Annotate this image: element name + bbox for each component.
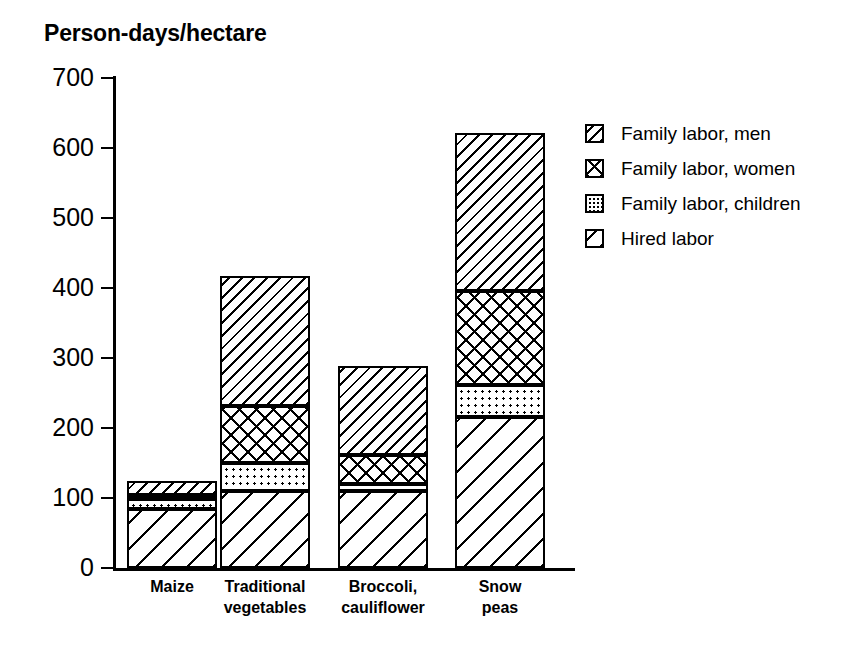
bar-segment[interactable] xyxy=(127,509,217,569)
stacked-bar[interactable] xyxy=(220,78,310,568)
y-axis-tick-mark xyxy=(101,567,114,569)
y-axis-tick-label: 100 xyxy=(34,485,94,510)
bar-segment[interactable] xyxy=(127,499,217,508)
y-axis-tick-label: 200 xyxy=(34,415,94,440)
chart-legend: Family labor, menFamily labor, womenFami… xyxy=(585,116,843,256)
chart-container: Person-days/hectare 70060050040030020010… xyxy=(0,0,848,645)
legend-item-label: Hired labor xyxy=(621,228,714,250)
y-axis-tick-label: 500 xyxy=(34,205,94,230)
bar-segment[interactable] xyxy=(338,491,428,568)
legend-item[interactable]: Family labor, women xyxy=(585,151,843,186)
y-axis-tick-mark xyxy=(101,77,114,79)
y-axis-tick-label: 0 xyxy=(34,555,94,580)
legend-swatch-icon xyxy=(585,159,604,178)
x-axis-label-line: Snow xyxy=(420,576,580,597)
bar-segment[interactable] xyxy=(338,484,428,491)
y-axis-tick-mark xyxy=(101,147,114,149)
bar-segment[interactable] xyxy=(338,455,428,484)
y-axis-tick-mark xyxy=(101,217,114,219)
y-axis-tick-mark xyxy=(101,287,114,289)
bar-segment[interactable] xyxy=(455,133,545,291)
legend-item[interactable]: Family labor, men xyxy=(585,116,843,151)
bar-segment[interactable] xyxy=(455,385,545,417)
legend-item[interactable]: Hired labor xyxy=(585,221,843,256)
y-axis-tick-label: 400 xyxy=(34,275,94,300)
bar-segment[interactable] xyxy=(127,481,217,495)
bar-segment[interactable] xyxy=(220,406,310,463)
y-axis-tick-label: 600 xyxy=(34,135,94,160)
x-axis-label: Snowpeas xyxy=(420,576,580,618)
bar-segment[interactable] xyxy=(455,417,545,568)
bar-segment[interactable] xyxy=(455,291,545,385)
x-axis-line xyxy=(113,568,575,571)
chart-title: Person-days/hectare xyxy=(44,20,266,47)
y-axis-tick-label: 700 xyxy=(34,65,94,90)
stacked-bar[interactable] xyxy=(127,78,217,568)
legend-swatch-icon xyxy=(585,124,604,143)
y-axis-tick-mark xyxy=(101,357,114,359)
y-axis-tick-mark xyxy=(101,497,114,499)
legend-item-label: Family labor, men xyxy=(621,123,771,145)
y-axis-tick-mark xyxy=(101,427,114,429)
legend-swatch-icon xyxy=(585,229,604,248)
legend-item-label: Family labor, children xyxy=(621,193,801,215)
y-axis-tick-label: 300 xyxy=(34,345,94,370)
bar-segment[interactable] xyxy=(127,495,217,500)
stacked-bar[interactable] xyxy=(338,78,428,568)
bar-segment[interactable] xyxy=(220,276,310,406)
y-axis-line xyxy=(113,76,116,570)
bar-segment[interactable] xyxy=(220,463,310,491)
legend-item-label: Family labor, women xyxy=(621,158,795,180)
bar-segment[interactable] xyxy=(338,366,428,455)
x-axis-label-line: peas xyxy=(420,597,580,618)
bar-segment[interactable] xyxy=(220,491,310,568)
stacked-bar[interactable] xyxy=(455,78,545,568)
legend-item[interactable]: Family labor, children xyxy=(585,186,843,221)
legend-swatch-icon xyxy=(585,194,604,213)
